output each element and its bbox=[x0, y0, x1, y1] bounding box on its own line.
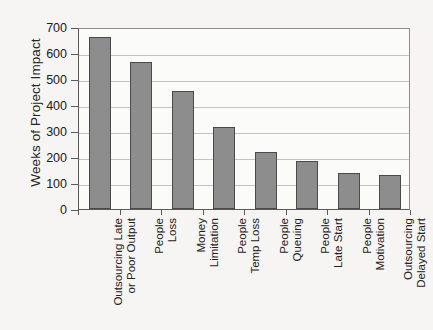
gridline bbox=[79, 81, 409, 82]
y-axis-tick bbox=[71, 80, 78, 81]
bar bbox=[89, 37, 111, 209]
x-axis-category-label: Outsourcing Lateor Poor Output bbox=[112, 218, 137, 330]
bar bbox=[379, 175, 401, 209]
x-axis-category-label: OutsourcingDelayed Start bbox=[402, 218, 427, 330]
gridline bbox=[79, 107, 409, 108]
x-axis-category-label: PeopleMotivation bbox=[361, 218, 386, 330]
x-axis-tick bbox=[120, 210, 121, 215]
x-axis-label-line1: People bbox=[236, 218, 249, 330]
x-axis-label-line2: Temp Loss bbox=[249, 218, 262, 330]
bar bbox=[338, 173, 360, 209]
x-axis-label-line1: Outsourcing bbox=[402, 218, 415, 330]
x-axis-label-line1: Outsourcing Late bbox=[112, 218, 125, 330]
y-axis-label: 700 bbox=[7, 21, 67, 35]
y-axis-label: 0 bbox=[7, 203, 67, 217]
x-axis-category-label: PeopleQueuing bbox=[278, 218, 303, 330]
x-axis-tick bbox=[327, 210, 328, 215]
gridline bbox=[79, 133, 409, 134]
y-axis-label: 300 bbox=[7, 125, 67, 139]
x-axis-category-label: PeopleTemp Loss bbox=[236, 218, 261, 330]
x-axis-label-line1: People bbox=[361, 218, 374, 330]
y-axis-tick bbox=[71, 184, 78, 185]
x-axis-tick bbox=[161, 210, 162, 215]
bar bbox=[130, 62, 152, 209]
bar bbox=[213, 127, 235, 209]
y-axis-label: 100 bbox=[7, 177, 67, 191]
y-axis-label: 400 bbox=[7, 99, 67, 113]
bar bbox=[172, 91, 194, 209]
x-axis-tick bbox=[286, 210, 287, 215]
x-axis-category-label: MoneyLimitation bbox=[195, 218, 220, 330]
x-axis-label-line1: People bbox=[153, 218, 166, 330]
y-axis-tick bbox=[71, 210, 78, 211]
x-axis-tick bbox=[369, 210, 370, 215]
bar bbox=[255, 152, 277, 209]
gridline bbox=[79, 55, 409, 56]
x-axis-label-line1: People bbox=[278, 218, 291, 330]
x-axis-label-line2: Loss bbox=[166, 218, 179, 330]
x-axis-label-line2: Motivation bbox=[373, 218, 386, 330]
x-axis-tick bbox=[78, 210, 79, 215]
x-axis-label-line2: Limitation bbox=[207, 218, 220, 330]
y-axis-tick bbox=[71, 54, 78, 55]
x-axis-label-line2: Queuing bbox=[290, 218, 303, 330]
y-axis-label: 200 bbox=[7, 151, 67, 165]
x-axis-category-label: PeopleLoss bbox=[153, 218, 178, 330]
bar-chart-figure: Weeks of Project Impact 0100200300400500… bbox=[0, 0, 433, 330]
y-axis-label: 600 bbox=[7, 47, 67, 61]
y-axis-tick bbox=[71, 28, 78, 29]
x-axis-tick bbox=[244, 210, 245, 215]
plot-area bbox=[78, 28, 410, 210]
y-axis-tick bbox=[71, 106, 78, 107]
x-axis-tick bbox=[203, 210, 204, 215]
y-axis-tick bbox=[71, 132, 78, 133]
x-axis-category-label: PeopleLate Start bbox=[319, 218, 344, 330]
x-axis-label-line2: Late Start bbox=[332, 218, 345, 330]
x-axis-label-line1: Money bbox=[195, 218, 208, 330]
bar bbox=[296, 161, 318, 209]
y-axis-label: 500 bbox=[7, 73, 67, 87]
gridline bbox=[79, 159, 409, 160]
x-axis-label-line1: People bbox=[319, 218, 332, 330]
x-axis-tick bbox=[410, 210, 411, 215]
y-axis-tick bbox=[71, 158, 78, 159]
x-axis-label-line2: or Poor Output bbox=[124, 218, 137, 330]
x-axis-label-line2: Delayed Start bbox=[415, 218, 428, 330]
